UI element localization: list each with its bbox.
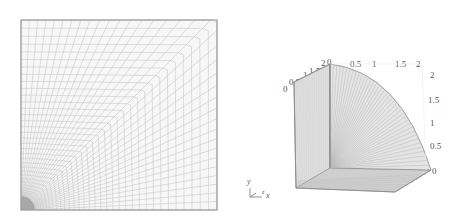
axis-triad: y z x	[246, 177, 270, 200]
axis-right-ticks: 2 1.5 1 0.5 0	[428, 70, 442, 176]
triad-z-label: z	[261, 189, 265, 195]
right-tick-1: 1.5	[428, 95, 440, 105]
quarter-cylinder-solid	[294, 64, 431, 192]
cylinder-mesh-canvas: 0 0.5 1 1.5 2 2 1.5 1 0.5 0 0 0.5 1 1.5 …	[230, 0, 462, 224]
left-tick-0: 0	[283, 84, 288, 94]
triad-z-arrow-icon	[250, 193, 256, 197]
right-tick-2: 1	[430, 118, 435, 128]
plate-mesh-canvas	[0, 0, 240, 224]
plate-mesh-2d-plot	[0, 0, 240, 224]
right-tick-3: 0.5	[430, 141, 442, 151]
triad-y-label: y	[246, 177, 251, 186]
right-tick-0: 2	[430, 70, 435, 80]
triad-x-label: x	[265, 191, 270, 200]
right-tick-4: 0	[432, 166, 437, 176]
quarter-cylinder-3d-plot: 0 0.5 1 1.5 2 2 1.5 1 0.5 0 0 0.5 1 1.5 …	[230, 0, 462, 224]
